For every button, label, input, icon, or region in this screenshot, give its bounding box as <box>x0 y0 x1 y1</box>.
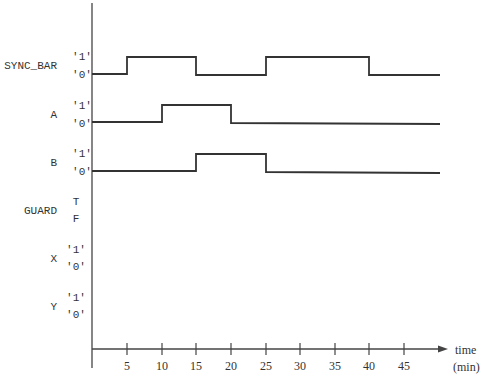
timing-diagram: 5 10 15 20 25 30 35 40 45 time (min) SYN… <box>0 0 482 377</box>
low-level-label: F <box>73 213 80 225</box>
x-axis-tick-labels: 5 10 15 20 25 30 35 40 45 <box>124 359 410 373</box>
x-axis-label: time <box>455 343 476 357</box>
tick-label: 5 <box>124 359 130 373</box>
waveform-b <box>92 154 440 173</box>
tick-label: 10 <box>156 359 168 373</box>
tick-label: 35 <box>329 359 341 373</box>
tick-label: 25 <box>260 359 272 373</box>
signal-labels: SYNC_BAR '1' '0' A '1' '0' B '1' '0' GUA… <box>4 51 92 321</box>
signal-name-b: B <box>50 157 57 169</box>
tick-label: 15 <box>190 359 202 373</box>
low-level-label: '0' <box>72 69 92 81</box>
low-level-label: '0' <box>72 118 92 130</box>
tick-label: 45 <box>398 359 410 373</box>
tick-label: 20 <box>225 359 237 373</box>
tick-label: 30 <box>294 359 306 373</box>
tick-label: 40 <box>363 359 375 373</box>
high-level-label: '1' <box>72 100 92 112</box>
low-level-label: '0' <box>72 166 92 178</box>
high-level-label: '1' <box>72 51 92 63</box>
x-axis-unit: (min) <box>453 360 480 374</box>
high-level-label: T <box>73 196 80 208</box>
waveform-sync-bar <box>92 57 440 75</box>
high-level-label: '1' <box>72 148 92 160</box>
low-level-label: '0' <box>66 261 86 273</box>
high-level-label: '1' <box>66 244 86 256</box>
x-axis-arrow-icon <box>438 346 448 353</box>
signal-name-x: X <box>50 253 57 265</box>
signal-name-a: A <box>50 109 57 121</box>
signal-name-y: Y <box>50 301 57 313</box>
signal-name-sync-bar: SYNC_BAR <box>4 60 57 72</box>
signal-name-guard: GUARD <box>24 205 57 217</box>
waveform-a <box>92 105 440 124</box>
high-level-label: '1' <box>66 292 86 304</box>
low-level-label: '0' <box>66 309 86 321</box>
